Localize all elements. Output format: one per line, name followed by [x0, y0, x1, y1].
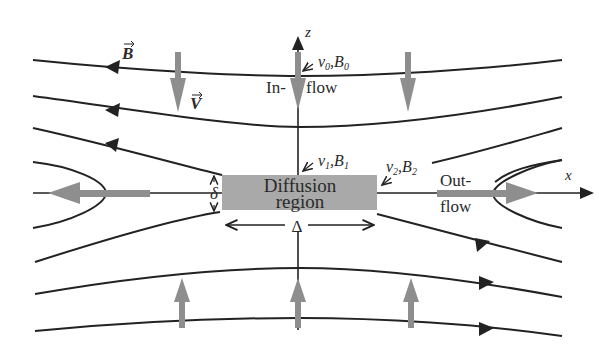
inflow-arrow-top-right — [400, 52, 416, 112]
svg-text:v0,B0: v0,B0 — [318, 53, 349, 72]
outflow-label-1: Out- — [440, 171, 472, 190]
delta-thickness-label: δ — [210, 184, 219, 203]
svg-text:v1,B1: v1,B1 — [318, 152, 349, 171]
v2-b2-label: v2,B2 — [386, 158, 417, 177]
v-vector-label: V — [190, 94, 203, 113]
b-arrow-5 — [479, 276, 494, 290]
field-line-top-4-right — [495, 160, 562, 182]
svg-text:v2,B2: v2,B2 — [386, 158, 417, 177]
v1-b1-pointer — [303, 163, 313, 171]
b-arrow-6 — [479, 322, 494, 336]
outflow-label-2: flow — [440, 197, 472, 216]
z-axis-arrowhead — [292, 36, 304, 50]
inflow-label-1: In- — [266, 78, 286, 97]
v2-b2-pointer — [382, 178, 391, 185]
field-line-bottom-3 — [35, 212, 220, 262]
b-arrow-1 — [105, 60, 120, 74]
b-arrow-2 — [105, 103, 120, 117]
x-axis-arrowhead — [580, 187, 594, 199]
v0-b0-pointer — [303, 64, 313, 71]
z-axis-label: z — [304, 24, 311, 40]
v0-b0-label: v0,B0 — [318, 53, 349, 72]
outflow-arrow-left — [48, 182, 150, 204]
inflow-arrow-top-left — [170, 52, 186, 112]
inflow-arrow-bottom-center — [290, 278, 306, 328]
v1-b1-label: v1,B1 — [318, 152, 349, 171]
delta-length-label: Δ — [292, 217, 303, 236]
diffusion-region-label-2: region — [276, 191, 325, 212]
x-axis-label: x — [564, 167, 572, 183]
inflow-arrow-top-center — [290, 52, 306, 110]
b-arrow-4 — [475, 238, 490, 252]
inflow-label-2: flow — [306, 78, 338, 97]
field-line-top-3-right — [432, 128, 562, 163]
reconnection-diagram: Δ δ Diffusion region B V z x In- flow Ou… — [0, 0, 599, 359]
